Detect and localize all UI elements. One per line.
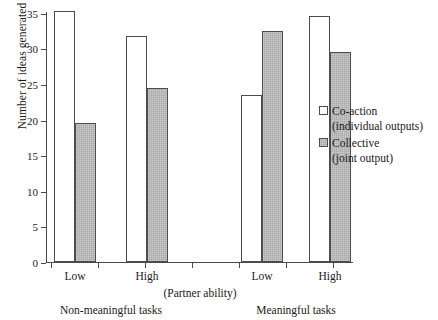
x-category-label-meaningful-low: Low	[251, 270, 272, 282]
bar-coaction-meaningful-low	[241, 95, 262, 262]
legend-sublabel-co-action: (individual outputs)	[332, 119, 423, 134]
legend-label-co-action: Co-action	[332, 105, 377, 117]
x-tick-mark	[192, 263, 193, 268]
y-tick-mark	[41, 263, 46, 264]
y-tick-label: 5	[10, 227, 38, 228]
bar-coaction-nonmeaningful-low	[54, 11, 75, 262]
chart-legend: Co-action (individual outputs) Collectiv…	[319, 104, 423, 168]
bar-collective-meaningful-low	[262, 31, 283, 262]
legend-item-co-action: Co-action (individual outputs)	[319, 104, 423, 133]
x-axis-line	[46, 262, 353, 263]
y-axis-title: Number of ideas generated	[16, 0, 28, 174]
x-tick-mark	[98, 263, 99, 268]
legend-sublabel-collective: (joint output)	[332, 151, 423, 166]
y-tick-label: 20	[10, 121, 38, 122]
bar-chart-figure: Number of ideas generated 35 30 25 20 15…	[0, 0, 438, 320]
y-tick-label: 10	[10, 192, 38, 193]
legend-label-collective: Collective	[332, 137, 379, 149]
y-tick-label: 0	[10, 263, 38, 264]
y-tick-mark	[41, 156, 46, 157]
y-tick-mark	[41, 192, 46, 193]
y-tick-mark	[41, 85, 46, 86]
y-tick-label: 25	[10, 85, 38, 86]
x-category-label-nonmeaningful-low: Low	[64, 270, 85, 282]
x-tick-mark	[145, 263, 146, 268]
group-label-non-meaningful-tasks: Non-meaningful tasks	[60, 304, 162, 316]
y-axis-line	[46, 12, 47, 263]
x-tick-mark	[239, 263, 240, 268]
y-tick-mark	[41, 121, 46, 122]
legend-main-line: Collective	[319, 137, 379, 149]
plot-area: 35 30 25 20 15 10 5 0	[46, 12, 353, 263]
x-tick-mark	[51, 263, 52, 268]
bar-collective-nonmeaningful-low	[75, 123, 96, 262]
y-tick-label: 30	[10, 49, 38, 50]
group-label-meaningful-tasks: Meaningful tasks	[256, 304, 336, 316]
y-tick-mark	[41, 49, 46, 50]
x-category-label-meaningful-high: High	[319, 270, 342, 282]
y-tick-label: 35	[10, 14, 38, 15]
legend-main-line: Co-action	[319, 105, 377, 117]
y-tick-mark	[41, 227, 46, 228]
x-tick-mark	[333, 263, 334, 268]
x-tick-mark	[286, 263, 287, 268]
bar-coaction-nonmeaningful-high	[126, 36, 147, 262]
x-category-label-nonmeaningful-high: High	[136, 270, 159, 282]
bar-collective-nonmeaningful-high	[147, 88, 168, 262]
x-axis-note: (Partner ability)	[163, 287, 236, 299]
y-tick-mark	[41, 14, 46, 15]
legend-item-collective: Collective (joint output)	[319, 136, 423, 165]
y-tick-label: 15	[10, 156, 38, 157]
white-square-swatch-icon	[319, 106, 328, 115]
grey-square-swatch-icon	[319, 138, 328, 147]
